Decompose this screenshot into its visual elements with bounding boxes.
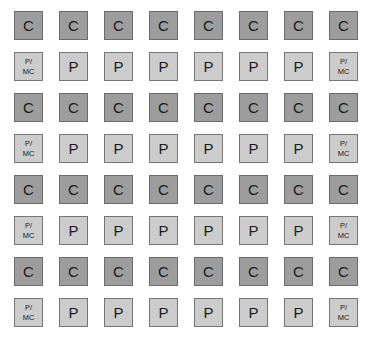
grid-cell-p-mc: P/MC: [329, 52, 358, 81]
grid-cell-c: C: [104, 11, 133, 40]
grid-cell-p-mc: P/MC: [329, 134, 358, 163]
cell-label: P: [158, 305, 168, 320]
grid-cell-c: C: [149, 11, 178, 40]
cell-label: C: [293, 264, 304, 279]
cell-label: C: [113, 100, 124, 115]
cell-label: P: [68, 305, 78, 320]
cell-label: C: [68, 18, 79, 33]
grid-row: P/MCPPPPPPP/MC: [0, 216, 369, 247]
grid-cell-c: C: [104, 175, 133, 204]
grid-cell-c: C: [194, 11, 223, 40]
cell-label-line-1: P/: [338, 139, 350, 149]
grid-row: P/MCPPPPPPP/MC: [0, 134, 369, 165]
cell-label: P: [203, 305, 213, 320]
cell-label: C: [23, 100, 34, 115]
grid-cell-c: C: [104, 257, 133, 286]
cell-label: C: [158, 182, 169, 197]
grid-row: P/MCPPPPPPP/MC: [0, 52, 369, 83]
grid-cell-c: C: [329, 257, 358, 286]
grid-cell-c: C: [239, 11, 268, 40]
grid-cell-c: C: [329, 11, 358, 40]
cell-label: P: [158, 59, 168, 74]
grid-cell-p-mc: P/MC: [14, 52, 43, 81]
cell-label: C: [338, 264, 349, 279]
cell-label: P: [68, 223, 78, 238]
grid-cell-c: C: [59, 11, 88, 40]
cell-label: P/MC: [338, 57, 350, 76]
grid-cell-p: P: [59, 298, 88, 327]
grid-row: P/MCPPPPPPP/MC: [0, 298, 369, 329]
grid-cell-c: C: [329, 175, 358, 204]
grid-cell-p-mc: P/MC: [329, 298, 358, 327]
grid-cell-c: C: [194, 257, 223, 286]
cell-label: P: [68, 141, 78, 156]
cell-label: P: [293, 59, 303, 74]
cell-label: C: [203, 18, 214, 33]
cell-label: C: [248, 264, 259, 279]
cell-label: C: [203, 100, 214, 115]
cell-label: C: [68, 100, 79, 115]
cell-label: P: [113, 141, 123, 156]
grid-cell-p: P: [149, 216, 178, 245]
grid-cell-p-mc: P/MC: [329, 216, 358, 245]
grid-cell-c: C: [194, 175, 223, 204]
cell-label: C: [338, 18, 349, 33]
cell-label: C: [203, 182, 214, 197]
grid-cell-p: P: [284, 134, 313, 163]
grid-cell-c: C: [329, 93, 358, 122]
grid-cell-p: P: [59, 216, 88, 245]
cell-label: C: [113, 18, 124, 33]
grid-cell-p: P: [194, 298, 223, 327]
grid-cell-c: C: [239, 93, 268, 122]
cell-label: P/MC: [23, 57, 35, 76]
cell-label: C: [113, 182, 124, 197]
cell-label: P/MC: [23, 303, 35, 322]
cell-label: P: [203, 141, 213, 156]
grid-cell-p: P: [239, 134, 268, 163]
cell-label-line-1: P/: [338, 221, 350, 231]
cell-label: P: [158, 141, 168, 156]
cell-label: P: [293, 141, 303, 156]
cell-label: C: [248, 182, 259, 197]
grid-cell-c: C: [104, 93, 133, 122]
cell-label: P/MC: [338, 221, 350, 240]
cell-label: C: [158, 264, 169, 279]
cell-label-line-1: P/: [338, 303, 350, 313]
grid-cell-p: P: [239, 52, 268, 81]
grid-cell-c: C: [284, 11, 313, 40]
grid-cell-p: P: [149, 134, 178, 163]
cell-grid-diagram: CCCCCCCCP/MCPPPPPPP/MCCCCCCCCCP/MCPPPPPP…: [0, 0, 369, 340]
cell-label: C: [293, 18, 304, 33]
grid-cell-p: P: [104, 134, 133, 163]
cell-label-line-1: P/: [23, 57, 35, 67]
grid-cell-p: P: [194, 134, 223, 163]
grid-cell-c: C: [149, 175, 178, 204]
cell-label-line-2: MC: [338, 231, 350, 241]
cell-label: C: [68, 182, 79, 197]
cell-label: P: [293, 305, 303, 320]
cell-label: P: [203, 223, 213, 238]
cell-label: C: [338, 100, 349, 115]
cell-label: P: [113, 223, 123, 238]
grid-cell-p: P: [149, 52, 178, 81]
grid-cell-c: C: [14, 11, 43, 40]
grid-cell-p: P: [104, 216, 133, 245]
grid-cell-p: P: [284, 52, 313, 81]
grid-cell-c: C: [239, 175, 268, 204]
cell-label: C: [203, 264, 214, 279]
cell-label: C: [23, 18, 34, 33]
cell-label: P: [113, 59, 123, 74]
cell-label: C: [293, 100, 304, 115]
cell-label-line-2: MC: [338, 149, 350, 159]
grid-cell-c: C: [284, 257, 313, 286]
grid-cell-c: C: [149, 93, 178, 122]
grid-cell-c: C: [59, 175, 88, 204]
cell-label: P: [68, 59, 78, 74]
cell-label: P: [248, 59, 258, 74]
cell-label-line-2: MC: [23, 313, 35, 323]
grid-cell-p: P: [284, 298, 313, 327]
cell-label-line-1: P/: [23, 303, 35, 313]
grid-cell-p: P: [284, 216, 313, 245]
cell-label-line-1: P/: [23, 221, 35, 231]
grid-cell-p: P: [104, 52, 133, 81]
